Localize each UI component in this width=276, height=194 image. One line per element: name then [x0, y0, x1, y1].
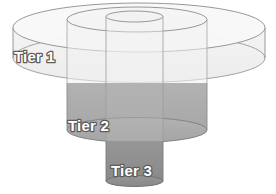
tier-2-label: Tier 2	[68, 117, 109, 134]
tier-3-cylinder[interactable]	[106, 11, 163, 187]
diagram-canvas: Tier 1 Tier 2 Tier 3	[0, 0, 276, 194]
tier-3-occluded-wall-middle	[106, 83, 163, 141]
tier-3-top-ellipse	[106, 11, 163, 22]
tier-cylinder-diagram: Tier 1 Tier 2 Tier 3	[0, 0, 276, 194]
tier-3-occluded-wall-upper	[106, 17, 163, 84]
tier-1-label: Tier 1	[14, 48, 55, 65]
tier-3-label: Tier 3	[111, 162, 152, 179]
